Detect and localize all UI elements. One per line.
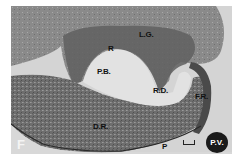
label-fr: F.R. xyxy=(195,92,208,101)
panel-letter: F xyxy=(17,137,25,152)
micrograph-panel xyxy=(11,6,232,154)
label-dr: D.R. xyxy=(93,122,108,131)
label-pv-circle: P.V. xyxy=(206,132,228,153)
label-pb: P.B. xyxy=(97,67,110,76)
label-rd: R.D. xyxy=(153,86,168,95)
label-p: P xyxy=(162,142,167,151)
label-lg: L.G. xyxy=(139,30,153,39)
tissue-section-image xyxy=(11,6,232,154)
label-r: R xyxy=(108,44,113,53)
scale-bar xyxy=(183,140,195,145)
